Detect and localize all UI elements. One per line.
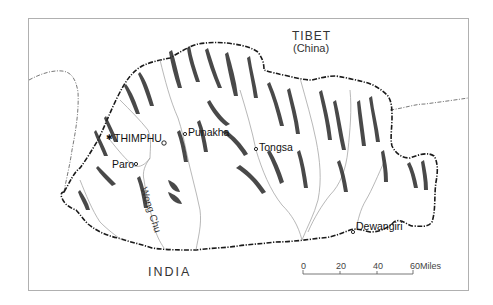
label-paro: Paro [112, 159, 134, 170]
punakha-marker [183, 132, 186, 135]
city-markers [134, 132, 354, 233]
label-punakha: Punakha [188, 127, 229, 138]
scale-tick-40: 40 [373, 262, 383, 271]
scale-tick-0: 0 [301, 262, 306, 271]
label-thimphu: THIMPHU [114, 133, 162, 144]
label-india: INDIA [148, 266, 191, 279]
tongsa-marker [254, 147, 257, 150]
label-dewangiri: Dewangiri [356, 221, 403, 232]
relief-shading [78, 46, 428, 210]
dewangiri-marker [351, 230, 354, 233]
scale-tick-60-miles: 60Miles [410, 262, 441, 271]
international-boundary-east [390, 98, 468, 110]
bhutan-border [61, 43, 437, 251]
capital-star-icon: ✱ [106, 134, 113, 141]
label-tibet: TIBET [292, 30, 331, 42]
scale-tick-20: 20 [336, 262, 346, 271]
scale-bar [303, 270, 413, 274]
thimphu-marker [162, 141, 166, 145]
paro-marker [134, 162, 137, 165]
map-canvas [0, 0, 493, 305]
international-boundary-west [29, 71, 78, 192]
label-tongsa: Tongsa [259, 142, 293, 153]
label-china: (China) [293, 43, 329, 54]
